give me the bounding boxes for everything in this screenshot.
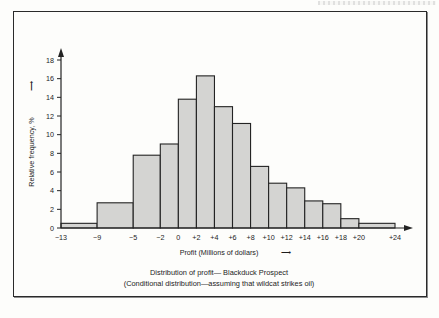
x-axis-title-arrow: ⟶	[281, 248, 291, 257]
y-axis-tick-label: 2	[50, 205, 54, 214]
histogram-bar	[269, 183, 287, 228]
x-axis-tick-label: −2	[156, 233, 164, 242]
y-axis-tick-label: 0	[50, 224, 54, 233]
x-axis-tick-label: +10	[263, 233, 275, 242]
y-axis-tick-label: 14	[46, 93, 54, 102]
histogram-bar	[233, 123, 251, 228]
x-axis-title: Profit (Millions of dollars)	[180, 248, 259, 257]
x-axis-arrowhead	[404, 225, 413, 231]
y-axis-tick-label: 10	[46, 130, 54, 139]
histogram-bar	[305, 201, 323, 228]
bars-group	[61, 76, 395, 228]
x-axis-tick-label: +12	[281, 233, 293, 242]
x-axis-tick-label: +2	[192, 233, 200, 242]
histogram-bar	[341, 219, 359, 228]
x-axis-tick-label: −9	[93, 233, 101, 242]
y-axis-tick-label: 12	[46, 112, 54, 121]
histogram-bar	[160, 144, 178, 228]
y-axis-tick-label: 16	[46, 74, 54, 83]
y-axis-tick-label: 18	[46, 56, 54, 65]
histogram-bar	[178, 99, 196, 228]
x-axis-tick-label: +14	[299, 233, 311, 242]
y-axis-tick-label: 8	[50, 149, 54, 158]
histogram-bar	[323, 204, 341, 228]
histogram-figure: 024681012141618 −13−9−5−20+2+4+6+8+10+12…	[14, 12, 426, 296]
x-axis-tick-label: +24	[389, 233, 401, 242]
y-ticks-group: 024681012141618	[46, 56, 61, 233]
histogram-bar	[251, 166, 269, 228]
x-axis-tick-label: −5	[129, 233, 137, 242]
x-axis-tick-label: +4	[210, 233, 218, 242]
histogram-bar	[196, 76, 214, 228]
x-axis-tick-label: +16	[317, 233, 329, 242]
histogram-bar	[97, 203, 133, 228]
y-axis-title-arrow: ⟶	[27, 81, 36, 91]
x-axis-tick-label: +18	[335, 233, 347, 242]
histogram-bar	[61, 223, 97, 228]
x-ticks-group: −13−9−5−20+2+4+6+8+10+12+14+16+18+20+24	[55, 233, 401, 242]
histogram-bar	[214, 107, 232, 228]
y-axis-title: Relative frequency, %	[27, 117, 36, 187]
x-axis-tick-label: +6	[228, 233, 236, 242]
scan-artifact	[318, 1, 436, 5]
y-axis-tick-label: 4	[50, 186, 54, 195]
y-axis-tick-label: 6	[50, 168, 54, 177]
histogram-bar	[287, 188, 305, 228]
caption-line-2: (Conditional distribution—assuming that …	[124, 279, 315, 288]
histogram-bar	[359, 223, 395, 228]
histogram-bar	[133, 155, 160, 228]
x-axis-tick-label: 0	[176, 233, 180, 242]
caption-line-1: Distribution of profit— Blackduck Prospe…	[150, 268, 288, 277]
x-axis-tick-label: +8	[246, 233, 254, 242]
figure-frame: 024681012141618 −13−9−5−20+2+4+6+8+10+12…	[13, 11, 427, 297]
y-axis-arrowhead	[58, 48, 64, 57]
x-axis-tick-label: −13	[55, 233, 67, 242]
x-axis-tick-label: +20	[353, 233, 365, 242]
